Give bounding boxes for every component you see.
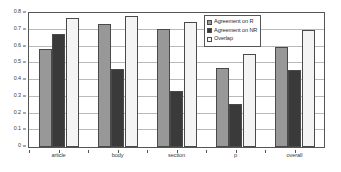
bar[interactable] [170,91,183,147]
y-tick-label: 0.4 [14,76,21,81]
bar[interactable] [243,54,256,147]
x-tick-mark [177,150,178,153]
bar[interactable] [52,34,65,147]
bar-group [265,13,324,147]
y-tick-label: 0.6 [14,43,21,48]
bar[interactable] [302,30,315,147]
bar[interactable] [288,70,301,147]
bar[interactable] [111,69,124,147]
y-tick-mark [23,28,26,29]
y-tick-label: 0.5 [14,60,21,65]
y-tick-label: 0.1 [14,127,21,132]
y-tick-label: 0.3 [14,93,21,98]
bar[interactable] [216,68,229,147]
x-tick-mark [295,150,296,153]
x-tick-mark [118,150,119,153]
y-tick-mark [23,79,26,80]
bar[interactable] [229,104,242,147]
bar-group [29,13,88,147]
y-tick-mark [23,12,26,13]
bar-group [147,13,206,147]
legend-item[interactable]: Overlap [207,35,257,43]
y-tick-mark [23,129,26,130]
bar[interactable] [275,47,288,147]
legend-item[interactable]: Agreement on NR [207,27,257,35]
bar[interactable] [157,29,170,147]
bar[interactable] [98,24,111,147]
x-tick-mark [147,150,148,153]
y-axis: 00.10.20.30.40.50.60.70.8 [0,12,26,148]
bar[interactable] [39,49,52,147]
legend-swatch-icon [207,20,212,25]
y-tick-mark [23,146,26,147]
bar-chart: 00.10.20.30.40.50.60.70.8 articlebodysec… [0,0,341,172]
y-tick-mark [23,112,26,113]
y-tick-label: 0.8 [14,9,21,14]
x-tick-mark [29,150,30,153]
y-tick-label: 0.2 [14,110,21,115]
y-tick-mark [23,45,26,46]
bar[interactable] [125,16,138,147]
bar[interactable] [184,22,197,147]
x-axis: articlebodysectionpoverall [29,150,324,164]
legend-swatch-icon [207,37,212,42]
y-tick-label: 0.7 [14,26,21,31]
legend-label: Agreement on NR [214,28,257,34]
bar-group [88,13,147,147]
y-tick-mark [23,62,26,63]
y-tick-label: 0 [18,143,21,148]
x-tick-mark [265,150,266,153]
x-tick-mark [88,150,89,153]
x-tick-mark [59,150,60,153]
x-tick-mark [236,150,237,153]
bar[interactable] [66,18,79,147]
legend: Agreement on RAgreement on NROverlap [204,15,261,47]
legend-label: Agreement on R [214,19,253,25]
legend-item[interactable]: Agreement on R [207,18,257,26]
bars-layer [29,13,324,147]
y-tick-mark [23,95,26,96]
legend-label: Overlap [214,36,233,42]
legend-swatch-icon [207,28,212,33]
x-tick-mark [206,150,207,153]
